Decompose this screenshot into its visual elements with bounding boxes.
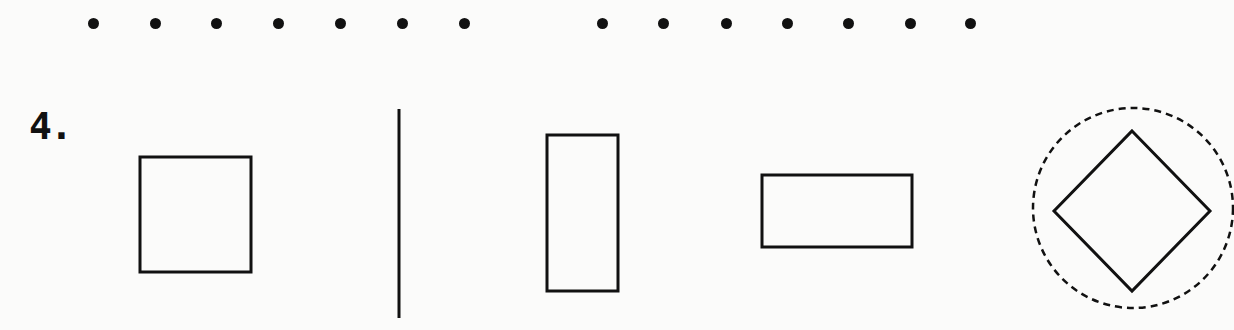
shapes-canvas bbox=[0, 0, 1234, 330]
wide-rectangle-shape bbox=[762, 175, 912, 247]
square-shape bbox=[140, 157, 251, 272]
dashed-circle-shape bbox=[1033, 108, 1233, 308]
diamond-shape bbox=[1054, 131, 1210, 291]
tall-rectangle-shape bbox=[547, 135, 618, 291]
